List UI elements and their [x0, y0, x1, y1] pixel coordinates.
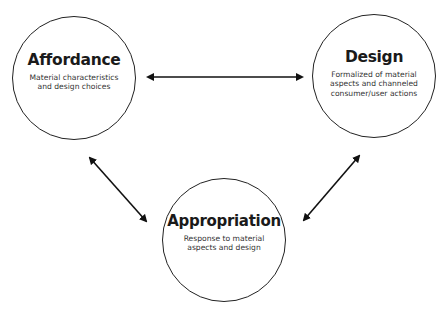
node-description: Material characteristics and design choi…: [20, 73, 129, 92]
node-title: Appropriation: [167, 212, 281, 230]
arrow-design-appropriation: [304, 156, 359, 220]
node-design: Design Formalized of material aspects an…: [312, 14, 436, 138]
node-title: Design: [345, 48, 403, 66]
node-appropriation: Appropriation Response to material aspec…: [162, 178, 286, 302]
node-title: Affordance: [27, 51, 120, 69]
node-affordance: Affordance Material characteristics and …: [12, 16, 136, 140]
node-description: Formalized of material aspects and chann…: [320, 70, 428, 99]
arrow-affordance-appropriation: [90, 158, 146, 221]
node-description: Response to material aspects and design: [174, 234, 275, 253]
